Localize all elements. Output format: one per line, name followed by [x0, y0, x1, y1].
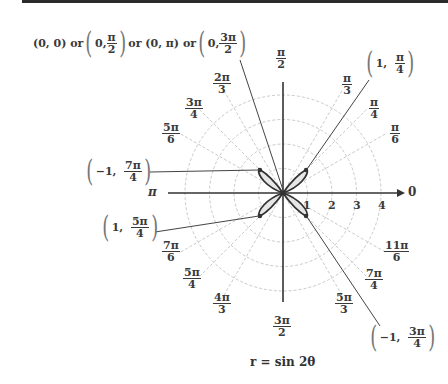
denominator: 2 [108, 44, 116, 55]
denominator: 6 [393, 252, 401, 263]
angle-label-pi-4: π4 [369, 97, 379, 120]
paren-close: ) [428, 322, 435, 352]
denominator: 2 [277, 59, 285, 70]
fraction: 3π2 [219, 32, 237, 55]
radial-tick-2: 2 [328, 200, 336, 211]
denominator: 4 [129, 172, 137, 183]
denominator: 4 [190, 109, 198, 120]
point-label-neg1-3pi-4: (−1, 3π4) [368, 322, 438, 352]
fraction: π2 [107, 32, 117, 55]
paren-close: ) [239, 28, 246, 58]
angle-label-2pi-3: 2π3 [213, 72, 231, 95]
point-r: 1, [112, 221, 123, 234]
polar-figure: (0, 0) or ( 0, π2 ) or (0, π) or ( 0, 3π… [0, 0, 448, 384]
fraction: 7π4 [124, 160, 142, 183]
numerator: 3π [219, 32, 237, 44]
denominator: 2 [278, 327, 286, 338]
paren-open: ( [366, 48, 373, 78]
point-label-1-pi-4: (1, π4) [364, 48, 417, 78]
denominator: 4 [370, 109, 378, 120]
paren-open: ( [86, 28, 93, 58]
numerator: 5π [131, 216, 149, 228]
denominator: 2 [224, 44, 232, 55]
angle-label-5pi-6: 5π6 [162, 122, 180, 145]
numerator: 3π [408, 326, 426, 338]
angle-label-5pi-4: 5π4 [183, 267, 201, 290]
denominator: 6 [167, 134, 175, 145]
denominator: 3 [218, 304, 226, 315]
angle-label-7pi-6: 7π6 [162, 240, 180, 263]
equation-caption: r = sin 2θ [250, 355, 315, 369]
denominator: 4 [136, 228, 144, 239]
denominator: 3 [218, 84, 226, 95]
paren-close: ) [119, 28, 126, 58]
angle-label-pi-6: π6 [390, 122, 400, 145]
denominator: 3 [343, 85, 351, 96]
denominator: 4 [413, 338, 421, 349]
angle-label-pi-3: π3 [342, 73, 352, 96]
point-r: −1, [96, 165, 117, 178]
fraction: 5π4 [131, 216, 149, 239]
angle-label-11pi-6: 11π6 [384, 240, 409, 263]
paren-open: ( [102, 212, 109, 242]
angle-label-5pi-3: 5π3 [335, 292, 353, 315]
pole-text-2: 0, [95, 37, 106, 50]
pole-text-4: 0, [208, 37, 219, 50]
angle-label-3pi-2: 3π2 [273, 315, 291, 338]
denominator: 3 [340, 304, 348, 315]
point-r: 1, [376, 57, 387, 70]
denominator: 6 [167, 252, 175, 263]
axis-label-zero: 0 [408, 187, 416, 198]
radial-tick-3: 3 [353, 200, 361, 211]
denominator: 6 [391, 134, 399, 145]
point-label-1-5pi-4: (1, 5π4) [100, 212, 160, 242]
angle-label-pi-2: π2 [276, 47, 286, 70]
angle-label-3pi-4: 3π4 [185, 97, 203, 120]
pole-annotation: (0, 0) or ( 0, π2 ) or (0, π) or ( 0, 3π… [33, 28, 249, 58]
fraction: 3π4 [408, 326, 426, 349]
numerator: π [107, 32, 117, 44]
denominator: 4 [188, 279, 196, 290]
radial-tick-4: 4 [378, 200, 386, 211]
paren-open: ( [198, 28, 205, 58]
angle-label-4pi-3: 4π3 [213, 292, 231, 315]
paren-close: ) [144, 156, 151, 186]
numerator: 7π [124, 160, 142, 172]
radial-tick-1: 1 [303, 200, 311, 211]
point-r: −1, [380, 331, 401, 344]
fraction: π4 [395, 52, 405, 75]
arrow-icon [397, 189, 405, 197]
point-label-neg1-7pi-4: (−1, 7π4) [84, 156, 154, 186]
denominator: 4 [370, 280, 378, 291]
denominator: 4 [396, 64, 404, 75]
numerator: π [395, 52, 405, 64]
angle-label-7pi-4: 7π4 [365, 268, 383, 291]
paren-close: ) [151, 212, 158, 242]
paren-open: ( [370, 322, 377, 352]
paren-open: ( [86, 156, 93, 186]
paren-close: ) [407, 48, 414, 78]
axis-label-pi: π [148, 187, 157, 198]
pole-text-1: (0, 0) or [33, 37, 83, 50]
pole-text-3: or (0, π) or [128, 37, 196, 50]
